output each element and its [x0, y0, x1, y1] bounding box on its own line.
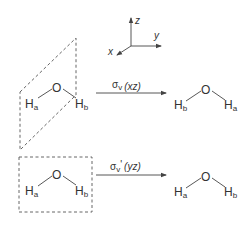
bottom-left-molecule: O Ha Hb — [25, 168, 89, 199]
top-right-molecule: O Hb Ha — [174, 83, 238, 113]
bottom-row: O Ha Hb σv'(yz) O Ha Hb — [19, 157, 238, 212]
hydrogen-b: Hb — [174, 98, 188, 113]
operation-label-sigma-v-prime-yz: σv'(yz) — [110, 159, 141, 174]
oxygen-atom: O — [201, 83, 210, 97]
bond-left — [38, 176, 52, 186]
z-axis-label: z — [134, 15, 140, 26]
oxygen-atom: O — [52, 168, 61, 182]
top-operation: σv(xz) — [96, 79, 166, 93]
oxygen-atom: O — [52, 81, 61, 95]
coordinate-axes: z y x — [107, 15, 161, 57]
operation-label-sigma-v-xz: σv(xz) — [112, 79, 141, 92]
bond-left — [186, 178, 201, 188]
bond-left — [186, 91, 201, 101]
top-row: O Ha Hb σv(xz) O Hb Ha — [20, 38, 238, 150]
hydrogen-a: Ha — [25, 184, 39, 199]
symmetry-diagram: z y x O Ha Hb σv(xz) O Hb Ha O — [0, 0, 246, 227]
x-axis — [117, 46, 131, 55]
x-axis-label: x — [107, 46, 114, 57]
hydrogen-a: Ha — [174, 185, 188, 200]
bottom-right-molecule: O Ha Hb — [174, 170, 238, 200]
hydrogen-b: Hb — [224, 185, 238, 200]
bond-left — [38, 89, 52, 98]
hydrogen-b: Hb — [75, 184, 89, 199]
y-axis-label: y — [153, 30, 160, 41]
hydrogen-a: Ha — [224, 98, 238, 113]
hydrogen-a: Ha — [25, 97, 39, 112]
oxygen-atom: O — [201, 170, 210, 184]
hydrogen-b: Hb — [75, 97, 89, 112]
top-left-molecule: O Ha Hb — [25, 81, 89, 112]
xz-plane-parallelogram — [20, 38, 76, 150]
bottom-operation: σv'(yz) — [96, 159, 166, 175]
